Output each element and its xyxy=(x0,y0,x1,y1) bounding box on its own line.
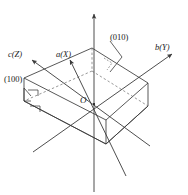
b-axis-line[interactable] xyxy=(33,54,172,152)
axis-label-a: a(X) xyxy=(56,50,71,59)
axis-label-b: b(Y) xyxy=(155,43,170,52)
face-100-leader-line xyxy=(24,88,31,96)
a-axis-line[interactable] xyxy=(70,60,126,176)
crystal-cell-drawing xyxy=(0,0,188,195)
axis-label-c: c(Z) xyxy=(8,50,22,59)
origin-label: O xyxy=(80,96,87,105)
face-label-010: (010) xyxy=(110,33,128,42)
origin-point xyxy=(93,103,95,105)
cell-right-face xyxy=(106,83,148,144)
crystal-cell-figure: c(Z) a(X) b(Y) (100) (010) O xyxy=(0,0,188,195)
face-010-leader-line xyxy=(110,41,122,72)
right-angle-mark xyxy=(28,90,38,96)
face-label-100: (100) xyxy=(4,75,22,84)
